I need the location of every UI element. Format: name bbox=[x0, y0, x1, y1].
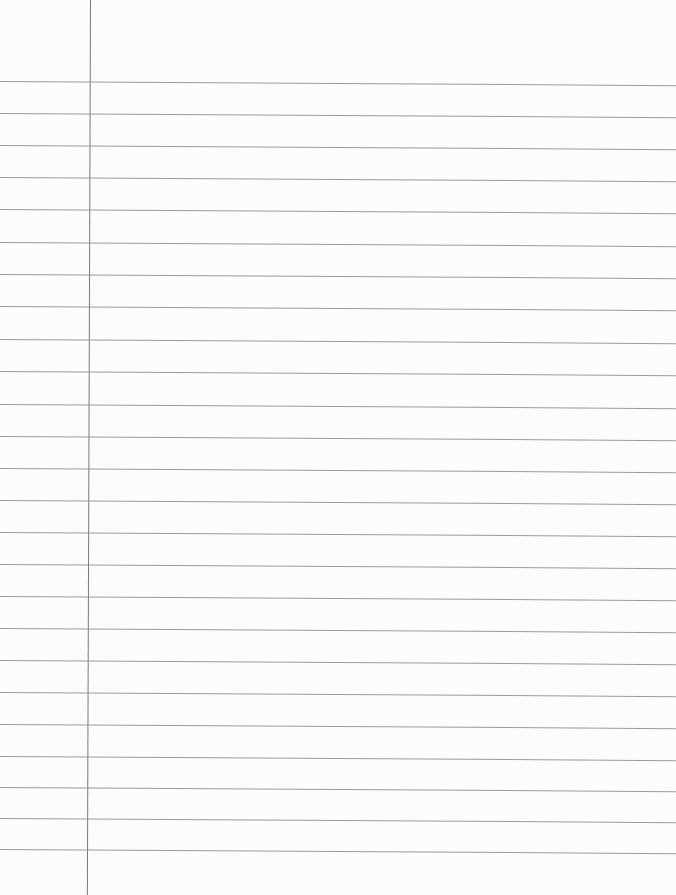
ruled-line bbox=[0, 756, 676, 761]
ruled-line bbox=[0, 81, 676, 86]
ruled-line bbox=[0, 274, 676, 279]
ruled-line bbox=[0, 113, 676, 118]
ruled-line bbox=[0, 436, 676, 441]
ruled-line bbox=[0, 628, 676, 633]
ruled-line bbox=[0, 339, 676, 344]
ruled-line bbox=[0, 596, 676, 601]
ruled-line bbox=[0, 818, 676, 823]
ruled-line bbox=[0, 306, 676, 311]
ruled-line bbox=[0, 209, 676, 214]
ruled-line bbox=[0, 692, 676, 697]
ruled-line bbox=[0, 532, 676, 537]
ruled-line bbox=[0, 145, 676, 150]
ruled-line bbox=[0, 242, 676, 247]
ruled-line bbox=[0, 468, 676, 473]
ruled-line bbox=[0, 371, 676, 376]
ruled-line bbox=[0, 404, 676, 409]
ruled-line bbox=[0, 724, 676, 729]
ruled-line bbox=[0, 787, 676, 792]
ruled-line bbox=[0, 500, 676, 505]
margin-line bbox=[87, 0, 91, 895]
lined-paper bbox=[0, 0, 676, 895]
ruled-line bbox=[0, 564, 676, 569]
ruled-line bbox=[0, 660, 676, 665]
ruled-line bbox=[0, 177, 676, 182]
ruled-line bbox=[0, 849, 676, 854]
